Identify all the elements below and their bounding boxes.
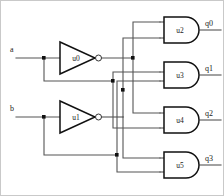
gate-label-u1: u1 [72, 113, 80, 122]
junction-dot-not-a-bus [131, 56, 135, 60]
output-label-q1: q1 [205, 64, 213, 73]
gate-label-u0: u0 [72, 54, 80, 63]
junction-dot-a-branch [42, 56, 46, 60]
wire-a-to-u4 [113, 81, 160, 128]
wire-not-b-to-u5 [123, 117, 160, 158]
gate-u2[interactable]: u2 [164, 17, 199, 43]
inverter-bubble-u1 [96, 114, 102, 120]
gate-label-u2: u2 [176, 26, 184, 35]
wire-not-b-to-u2 [123, 38, 160, 117]
gate-u5[interactable]: u5 [164, 152, 199, 178]
gate-label-u3: u3 [176, 71, 184, 80]
gate-u3[interactable]: u3 [164, 62, 199, 88]
gate-u4[interactable]: u4 [164, 107, 199, 133]
junction-dot-not-b-bus [121, 88, 125, 92]
junction-layer [42, 56, 135, 157]
wire-a-bus-to-u3 [113, 72, 160, 81]
junction-dot-b-bus [115, 153, 119, 157]
inverter-bubble-u0 [96, 55, 102, 61]
gate-label-u4: u4 [176, 116, 184, 125]
gate-label-u5: u5 [176, 161, 184, 170]
schematic-canvas: u0 u1 u2 u3 u4 u5 a [0, 0, 224, 196]
wire-layer [16, 22, 221, 172]
logic-diagram: u0 u1 u2 u3 u4 u5 a [0, 0, 224, 196]
junction-dot-a-bus [111, 79, 115, 83]
output-label-q3: q3 [205, 154, 213, 163]
gate-u0[interactable]: u0 [60, 42, 102, 74]
wire-not-a-to-u4 [133, 58, 160, 113]
output-label-q2: q2 [205, 109, 213, 118]
gate-u1[interactable]: u1 [60, 101, 102, 133]
output-label-q0: q0 [205, 19, 213, 28]
input-label-a: a [10, 45, 14, 54]
wire-not-a-to-u2 [133, 22, 160, 58]
junction-dot-b-branch [42, 115, 46, 119]
input-label-b: b [10, 104, 14, 113]
